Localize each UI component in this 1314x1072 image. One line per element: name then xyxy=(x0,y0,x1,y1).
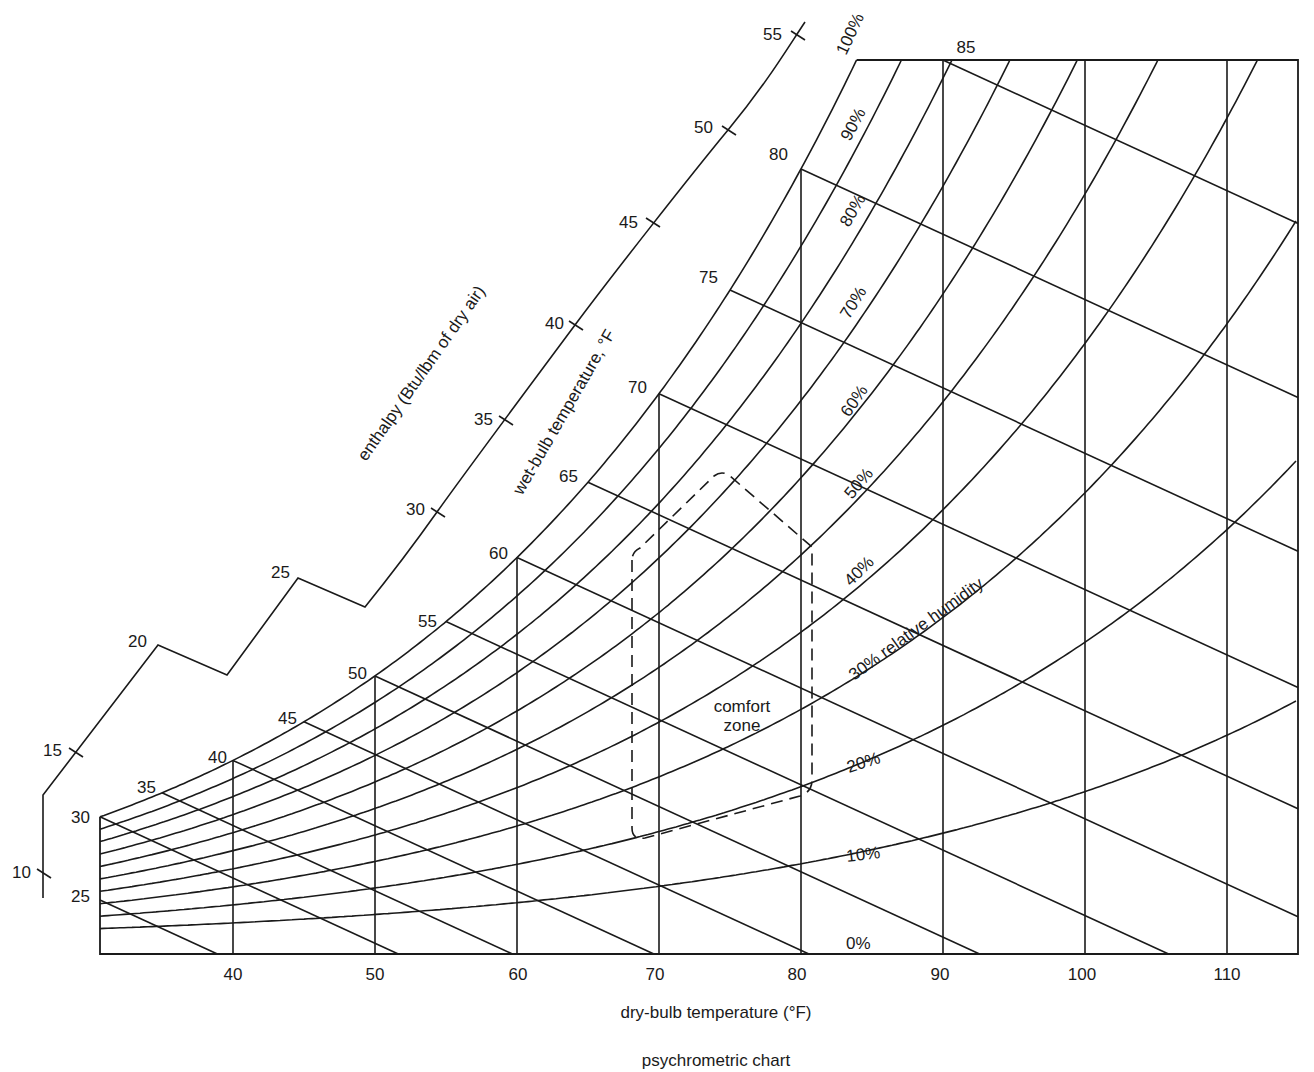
rh-label-30: 30% relative humidity xyxy=(845,574,987,685)
wb-label-80: 80 xyxy=(769,145,788,164)
wet-bulb-line-35 xyxy=(162,793,512,954)
dry-bulb-gridlines xyxy=(233,60,1227,954)
wb-label-30: 30 xyxy=(71,808,90,827)
h-label-45: 45 xyxy=(619,213,638,232)
comfort-zone-label-line2: zone xyxy=(724,716,761,735)
wb-label-60: 60 xyxy=(489,544,508,563)
h-label-10: 10 xyxy=(12,863,31,882)
h-label-30: 30 xyxy=(406,500,425,519)
wet-bulb-line-75 xyxy=(730,290,1298,551)
h-label-40: 40 xyxy=(545,314,564,333)
enthalpy-tick xyxy=(646,218,660,227)
h-label-25: 25 xyxy=(271,563,290,582)
wet-bulb-line-50 xyxy=(375,676,980,954)
x-tick-110: 110 xyxy=(1213,965,1240,984)
rh-curve-40 xyxy=(100,60,1258,891)
rh-label-20: 20% xyxy=(844,748,882,777)
wb-label-85: 85 xyxy=(957,38,976,57)
rh-curve-90 xyxy=(100,60,901,829)
x-tick-labels: 40 50 60 70 80 90 100 110 xyxy=(224,965,1241,984)
h-label-55: 55 xyxy=(763,25,782,44)
enthalpy-scale xyxy=(37,22,805,898)
wet-bulb-line-40 xyxy=(233,760,654,954)
wet-bulb-line-60 xyxy=(517,558,1298,917)
x-axis-title: dry-bulb temperature (°F) xyxy=(620,1003,811,1022)
rh-label-0: 0% xyxy=(846,934,871,953)
h-label-50: 50 xyxy=(694,118,713,137)
h-label-20: 20 xyxy=(128,632,147,651)
wb-label-45: 45 xyxy=(278,709,297,728)
chart-title: psychrometric chart xyxy=(642,1051,791,1070)
wet-bulb-line-45 xyxy=(304,722,809,954)
wb-label-50: 50 xyxy=(348,664,367,683)
x-tick-100: 100 xyxy=(1068,965,1096,984)
wb-label-65: 65 xyxy=(559,467,578,486)
wet-bulb-line-80 xyxy=(801,169,1298,398)
rh-curve-50 xyxy=(100,60,1158,879)
rh-label-70: 70% xyxy=(836,283,870,322)
enthalpy-tick xyxy=(69,748,83,757)
rh-label-40: 40% xyxy=(840,552,877,589)
x-tick-50: 50 xyxy=(366,965,385,984)
x-tick-70: 70 xyxy=(646,965,665,984)
rh-label-50: 50% xyxy=(841,464,877,502)
comfort-zone-label-line1: comfort xyxy=(714,697,771,716)
psychrometric-chart: 40 50 60 70 80 90 100 110 dry-bulb tempe… xyxy=(0,0,1314,1072)
x-tick-80: 80 xyxy=(788,965,807,984)
rh-curve-60 xyxy=(100,60,1077,867)
rh-labels: 100% 90% 80% 70% 60% 50% 40% 30% relativ… xyxy=(832,10,987,953)
rh-label-100: 100% xyxy=(832,10,868,57)
enthalpy-scale-line xyxy=(43,22,805,898)
wb-label-35: 35 xyxy=(137,778,156,797)
wet-bulb-line-70 xyxy=(659,394,1298,688)
wb-label-55: 55 xyxy=(418,612,437,631)
wet-bulb-line-55 xyxy=(446,622,1169,954)
rh-label-90: 90% xyxy=(837,105,870,144)
rh-curve-70 xyxy=(100,60,1010,854)
enthalpy-axis-title: enthalpy (Btu/lbm of dry air) xyxy=(354,282,489,464)
enthalpy-tick xyxy=(37,869,51,878)
x-tick-90: 90 xyxy=(931,965,950,984)
enthalpy-labels: 10 15 20 25 30 35 40 45 50 55 xyxy=(12,25,782,882)
rh-curve-20 xyxy=(100,461,1296,916)
wb-label-75: 75 xyxy=(699,268,718,287)
rh-label-10: 10% xyxy=(845,843,881,866)
wb-label-70: 70 xyxy=(628,378,647,397)
relative-humidity-curves xyxy=(100,60,1296,929)
wb-label-40: 40 xyxy=(208,748,227,767)
wet-bulb-line-30 xyxy=(100,817,398,954)
h-label-35: 35 xyxy=(474,410,493,429)
x-tick-60: 60 xyxy=(509,965,528,984)
wb-label-25: 25 xyxy=(71,887,90,906)
h-label-15: 15 xyxy=(43,741,62,760)
x-tick-40: 40 xyxy=(224,965,243,984)
